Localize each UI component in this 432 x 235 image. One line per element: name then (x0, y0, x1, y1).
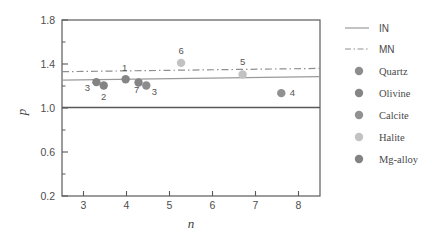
y-tick-label: 1.0 (40, 102, 55, 114)
x-tick-label: 8 (296, 199, 302, 211)
reference-line-MN (62, 68, 320, 71)
data-point-6 (177, 59, 185, 67)
data-point-label: 7 (134, 84, 139, 95)
legend-marker-halite (355, 133, 363, 141)
reference-line-IN (62, 77, 320, 81)
legend-marker-calcite (355, 111, 363, 119)
legend-label: Quartz (379, 66, 408, 77)
legend-marker-mg-alloy (355, 155, 363, 163)
legend-label: Halite (379, 132, 405, 143)
chart-legend: INMNQuartzOlivineCalciteHaliteMg-alloy (345, 23, 419, 165)
y-tick-label: 0.2 (40, 190, 55, 202)
legend-marker-quartz (355, 67, 363, 75)
y-tick-label: 1.8 (40, 14, 55, 26)
legend-label: IN (379, 23, 389, 34)
data-point-4 (277, 89, 285, 97)
x-axis-title: n (188, 216, 195, 231)
x-tick-label: 5 (167, 199, 173, 211)
data-point-label: 4 (290, 87, 295, 98)
data-point-3 (142, 81, 150, 89)
x-tick-label: 3 (81, 199, 87, 211)
data-point-label: 6 (178, 45, 183, 56)
legend-marker-olivine (355, 89, 363, 97)
data-point-2 (100, 81, 108, 89)
x-tick-label: 4 (124, 199, 130, 211)
scatter-chart-figure: 0.20.61.01.41.8 345678 32173654 p n INMN… (0, 0, 432, 235)
data-point-3 (92, 78, 100, 86)
chart-canvas: 0.20.61.01.41.8 345678 32173654 p n INMN… (0, 0, 432, 235)
y-tick-label: 0.6 (40, 146, 55, 158)
legend-label: Calcite (379, 110, 409, 121)
data-point-label: 3 (152, 86, 157, 97)
legend-label: Mg-alloy (379, 154, 419, 165)
x-axis: 345678 (81, 191, 302, 211)
data-points: 32173654 (85, 45, 295, 103)
data-point-label: 3 (85, 82, 90, 93)
y-axis-title: p (14, 108, 29, 116)
y-tick-label: 1.4 (40, 58, 55, 70)
data-point-label: 2 (101, 91, 106, 102)
data-point-label: 1 (122, 62, 127, 73)
data-point-label: 5 (240, 56, 245, 67)
x-tick-label: 7 (253, 199, 259, 211)
data-point-5 (238, 70, 246, 78)
x-tick-label: 6 (210, 199, 216, 211)
legend-label: Olivine (379, 88, 411, 99)
data-point-1 (121, 75, 129, 83)
legend-label: MN (379, 44, 395, 55)
